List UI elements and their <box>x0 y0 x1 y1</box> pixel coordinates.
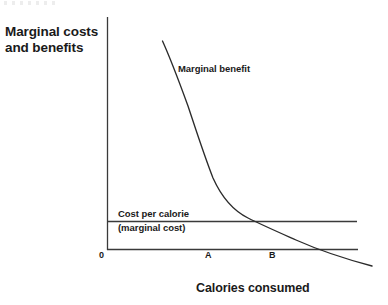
x-tick-label-b: B <box>269 250 276 261</box>
marginal-benefit-curve <box>163 41 373 266</box>
y-axis-title: Marginal costsand benefits <box>5 24 98 56</box>
economics-diagram: Marginal costsand benefits Marginal bene… <box>0 0 388 305</box>
cost-per-calorie-label: Cost per calorie <box>118 208 189 219</box>
x-tick-label-a: A <box>205 250 212 261</box>
x-axis-title: Calories consumed <box>196 281 310 296</box>
marginal-cost-label: (marginal cost) <box>118 222 185 233</box>
marginal-benefit-label: Marginal benefit <box>178 63 250 74</box>
origin-tick-label: 0 <box>99 250 104 261</box>
